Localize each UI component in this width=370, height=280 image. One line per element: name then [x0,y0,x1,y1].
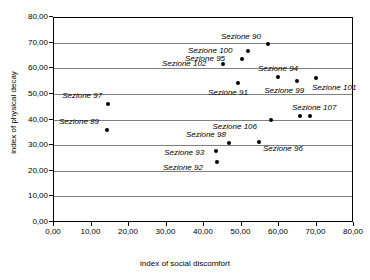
x-tick-mark [353,222,354,226]
data-point-label: Sezione 90 [221,32,261,41]
gridline [54,171,352,172]
y-tick-label: 30,00 [28,141,48,149]
data-point [269,118,273,122]
data-point-label: Sezione 91 [208,88,248,97]
gridline [54,43,352,44]
data-point-label: Sezione 93 [164,148,204,157]
x-tick-label: 40,00 [183,228,223,236]
y-tick-label: 80,00 [28,13,48,21]
data-point [266,42,270,46]
x-tick-mark [53,222,54,226]
y-axis-title: index of physical decay [9,48,18,178]
x-tick-label: 80,00 [333,228,370,236]
x-tick-label: 0,00 [33,228,73,236]
data-point [240,57,244,61]
x-tick-label: 50,00 [221,228,261,236]
y-tick-mark [49,42,53,43]
data-point [221,62,225,66]
x-tick-mark [128,222,129,226]
y-tick-mark [49,144,53,145]
x-tick-mark [91,222,92,226]
data-point [314,76,318,80]
y-tick-label: 40,00 [28,116,48,124]
x-tick-mark [241,222,242,226]
data-point [105,128,109,132]
data-point-label: Sezione 94 [258,64,298,73]
y-tick-label: 0,00 [32,218,48,226]
data-point-label: Sezione 92 [163,163,203,172]
y-tick-mark [49,93,53,94]
x-axis-title: index of social discomfort [0,259,370,268]
x-tick-mark [203,222,204,226]
y-tick-label: 20,00 [28,167,48,175]
data-point-label: Sezione 107 [292,103,336,112]
data-point-label: Sezione 99 [264,86,304,95]
x-tick-label: 70,00 [296,228,336,236]
y-tick-mark [49,170,53,171]
y-tick-label: 50,00 [28,90,48,98]
x-tick-label: 20,00 [108,228,148,236]
y-tick-label: 10,00 [28,192,48,200]
data-point-label: Sezione 102 [162,59,206,68]
data-point-label: Sezione 98 [186,130,226,139]
x-tick-label: 10,00 [71,228,111,236]
data-point [276,75,280,79]
y-tick-mark [49,119,53,120]
x-tick-mark [278,222,279,226]
x-tick-mark [316,222,317,226]
y-tick-mark [49,195,53,196]
data-point-label: Sezione 89 [59,117,99,126]
data-point [236,81,240,85]
data-point-label: Sezione 97 [62,91,102,100]
x-tick-label: 60,00 [258,228,298,236]
y-tick-label: 70,00 [28,39,48,47]
data-point [257,140,261,144]
data-point [298,114,302,118]
x-tick-label: 30,00 [146,228,186,236]
y-tick-mark [49,67,53,68]
gridline [54,68,352,69]
data-point [308,114,312,118]
scatter-chart: index of physical decay 0,0010,0020,0030… [0,0,370,280]
y-tick-label: 60,00 [28,64,48,72]
x-tick-mark [166,222,167,226]
data-point-label: Sezione 101 [312,83,356,92]
gridline [54,196,352,197]
y-tick-mark [49,16,53,17]
data-point-label: Sezione 96 [263,144,303,153]
gridline [54,145,352,146]
data-point [215,160,219,164]
data-point [227,141,231,145]
